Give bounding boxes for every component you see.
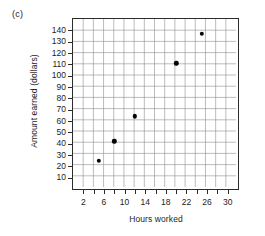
plot-area: 1020304050607080901001101201301402610141…: [72, 18, 239, 190]
y-axis-tick-label: 50: [57, 128, 66, 137]
x-axis-tick-label: 26: [202, 198, 211, 207]
y-axis-tick-label: 140: [52, 26, 66, 35]
x-axis-tick: [207, 189, 208, 194]
y-axis-tick-label: 60: [57, 117, 66, 126]
y-axis-tick-label: 110: [52, 60, 66, 69]
y-axis-tick: [68, 42, 73, 43]
part-label: (c): [12, 9, 23, 19]
x-axis-tick: [156, 189, 157, 194]
y-axis-tick-label: 100: [52, 71, 66, 80]
x-axis-tick: [94, 189, 95, 194]
y-axis-tick: [68, 110, 73, 111]
y-axis-tick: [68, 166, 73, 167]
y-axis-tick-label: 10: [57, 173, 66, 182]
y-axis-tick-label: 30: [57, 151, 66, 160]
x-axis-tick: [135, 189, 136, 194]
y-axis-title: Amount earned (dollars): [29, 21, 39, 181]
x-axis-tick-label: 2: [81, 198, 86, 207]
x-axis-tick: [125, 189, 126, 194]
y-axis-tick: [68, 132, 73, 133]
y-axis-tick-label: 70: [57, 105, 66, 114]
y-axis-tick-label: 40: [57, 139, 66, 148]
x-axis-tick: [83, 189, 84, 194]
x-axis-tick: [114, 189, 115, 194]
x-axis-tick: [145, 189, 146, 194]
x-axis-tick: [104, 189, 105, 194]
x-axis-tick: [217, 189, 218, 194]
x-axis-tick: [186, 189, 187, 194]
y-axis-tick-label: 20: [57, 162, 66, 171]
x-axis-tick: [228, 189, 229, 194]
x-axis-tick-label: 14: [140, 198, 149, 207]
y-axis-tick: [68, 155, 73, 156]
scatter-plot-figure: (c) Amount earned (dollars) 102030405060…: [0, 0, 265, 236]
y-axis-tick: [68, 30, 73, 31]
y-axis-tick: [68, 98, 73, 99]
x-axis-tick: [176, 189, 177, 194]
x-axis-tick: [166, 189, 167, 194]
x-axis-tick-label: 18: [161, 198, 170, 207]
y-axis-tick-label: 120: [52, 49, 66, 58]
x-axis-tick-label: 6: [102, 198, 107, 207]
y-axis-tick-label: 130: [52, 37, 66, 46]
y-axis-tick: [68, 144, 73, 145]
x-axis-tick-label: 10: [120, 198, 129, 207]
grid-lines: [73, 19, 238, 189]
y-axis-tick: [68, 87, 73, 88]
y-axis-tick: [68, 121, 73, 122]
y-axis-tick: [68, 64, 73, 65]
y-axis-tick-label: 90: [57, 83, 66, 92]
y-axis-tick-label: 80: [57, 94, 66, 103]
y-axis-tick: [68, 76, 73, 77]
x-axis-tick-label: 30: [223, 198, 232, 207]
x-axis-tick: [197, 189, 198, 194]
x-axis-title: Hours worked: [72, 214, 240, 224]
x-axis-tick-label: 22: [182, 198, 191, 207]
y-axis-tick: [68, 178, 73, 179]
y-axis-tick: [68, 53, 73, 54]
